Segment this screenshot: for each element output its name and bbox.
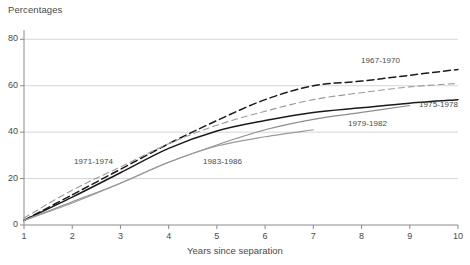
series-label-1971-1974: 1971-1974 — [74, 157, 113, 166]
y-tick-label: 80 — [2, 33, 18, 43]
series-label-1967-1970: 1967-1970 — [361, 56, 400, 65]
series-line-1967-1970 — [24, 69, 458, 220]
x-tick-label: 8 — [354, 231, 370, 241]
chart-container: Percentages 020406080 12345678910 Years … — [0, 0, 470, 265]
plot-area — [0, 0, 470, 265]
y-tick-label: 40 — [2, 126, 18, 136]
x-tick-label: 2 — [64, 231, 80, 241]
y-tick-label: 0 — [2, 219, 18, 229]
x-tick-label: 7 — [305, 231, 321, 241]
y-tick-label: 60 — [2, 80, 18, 90]
series-label-1979-1982: 1979-1982 — [348, 119, 387, 128]
x-tick-label: 9 — [402, 231, 418, 241]
series-label-1975-1978: 1975-1978 — [419, 100, 458, 109]
data-series-group — [24, 69, 458, 220]
x-tick-label: 3 — [112, 231, 128, 241]
series-line-1971-1974 — [24, 83, 458, 218]
x-axis-ticks — [24, 225, 458, 229]
x-tick-label: 6 — [257, 231, 273, 241]
x-axis-title: Years since separation — [0, 245, 470, 256]
series-label-1983-1986: 1983-1986 — [203, 157, 242, 166]
x-tick-label: 1 — [16, 231, 32, 241]
y-tick-label: 20 — [2, 173, 18, 183]
y-axis-ticks — [20, 39, 24, 225]
x-tick-label: 10 — [450, 231, 466, 241]
x-tick-label: 4 — [161, 231, 177, 241]
x-tick-label: 5 — [209, 231, 225, 241]
